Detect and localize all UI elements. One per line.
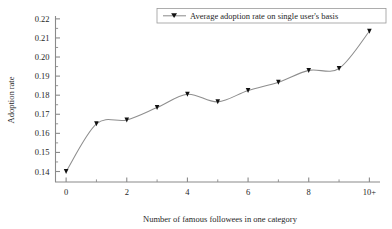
y-tick-label: 0.16 [35, 128, 50, 138]
y-tick-label: 0.19 [35, 71, 50, 81]
y-axis-tick-labels: 0.140.150.160.170.180.190.200.210.22 [35, 14, 51, 177]
y-axis-title: Adoption rate [6, 76, 16, 123]
y-tick-label: 0.21 [35, 33, 50, 43]
y-tick-label: 0.17 [35, 109, 50, 119]
axis-group [56, 16, 381, 182]
x-tick-label: 2 [125, 187, 129, 197]
x-axis-title: Number of famous followees in one catego… [143, 214, 298, 224]
y-tick-label: 0.15 [35, 147, 50, 157]
x-tick-label: 0 [64, 187, 68, 197]
x-tick-label: 10+ [363, 187, 377, 197]
chart-container: 0.140.150.160.170.180.190.200.210.22 024… [0, 0, 392, 229]
y-axis-ticks [56, 19, 61, 172]
x-tick-label: 8 [307, 187, 311, 197]
data-point-marker [155, 105, 160, 110]
y-tick-label: 0.20 [35, 52, 50, 62]
data-point-marker [337, 66, 342, 71]
y-tick-label: 0.14 [35, 167, 51, 177]
x-axis-tick-labels: 0246810+ [64, 187, 376, 197]
axis-frame [56, 16, 381, 182]
x-tick-label: 6 [246, 187, 250, 197]
x-tick-label: 4 [185, 187, 190, 197]
y-tick-label: 0.18 [35, 90, 50, 100]
series-group [64, 29, 372, 174]
data-point-marker [64, 169, 69, 174]
y-tick-label: 0.22 [35, 14, 50, 24]
line-chart-plot: 0.140.150.160.170.180.190.200.210.22 024… [0, 0, 392, 229]
x-axis-ticks [66, 178, 369, 183]
legend-entry-label: Average adoption rate on single user's b… [190, 11, 338, 21]
chart-legend[interactable]: Average adoption rate on single user's b… [157, 9, 386, 24]
